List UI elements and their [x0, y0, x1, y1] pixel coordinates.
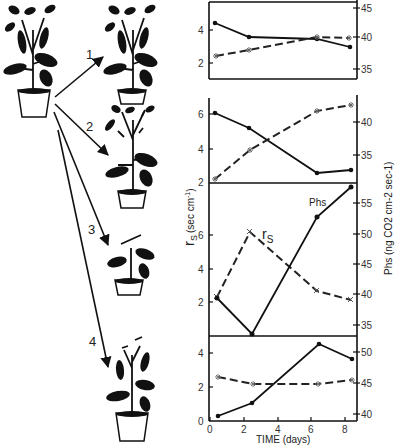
plant-control — [2, 3, 59, 117]
p4-right-tick-50: 50 — [361, 347, 373, 358]
p4-phs-line — [218, 344, 352, 416]
x-tick-8: 8 — [342, 424, 348, 435]
p3-phs-line — [217, 187, 351, 334]
arrow-2 — [55, 104, 108, 155]
p3-left-tick-2: 2 — [198, 297, 204, 308]
p1-right-tick-40: 40 — [361, 32, 373, 43]
p4-right-tick-40: 40 — [361, 409, 373, 420]
p4-rs-line — [218, 377, 352, 384]
rs-annotation: rS — [262, 226, 274, 245]
p2-right-tick-40: 40 — [361, 117, 373, 128]
p3-rs-line — [217, 232, 351, 300]
chart-panel-1: 4 2 45 40 35 — [198, 0, 373, 79]
p2-left-tick-2: 2 — [198, 177, 204, 188]
p3-right-tick-55: 55 — [361, 198, 373, 209]
p4-left-tick-4: 4 — [198, 348, 204, 359]
p1-right-tick-35: 35 — [361, 64, 373, 75]
p3-right-tick-45: 45 — [361, 259, 373, 270]
p4-right-tick-45: 45 — [361, 378, 373, 389]
treatment-label-1: 1 — [86, 47, 93, 62]
chart-panel-4: 4 2 0 50 45 40 0 2 4 6 8 TIME (days) — [198, 336, 373, 445]
p1-right-tick-45: 45 — [361, 3, 373, 14]
phs-annotation: Phs — [309, 197, 326, 208]
x-axis-title: TIME (days) — [256, 434, 310, 445]
treatment-label-3: 3 — [88, 222, 95, 237]
p4-left-tick-2: 2 — [198, 382, 204, 393]
plant-treatment-3 — [106, 235, 156, 295]
p1-left-tick-4: 4 — [198, 25, 204, 36]
p3-right-tick-50: 50 — [361, 229, 373, 240]
chart-panel-2: 6 4 2 40 35 — [198, 95, 373, 188]
plant-treatment-4 — [105, 337, 155, 441]
plant-treatment-2 — [103, 103, 159, 208]
p1-phs-line — [216, 37, 349, 56]
arrow-4 — [58, 130, 108, 367]
x-axis-ticks: 0 2 4 6 8 — [207, 417, 348, 435]
p3-right-tick-35: 35 — [361, 320, 373, 331]
treatment-arrows: 1 2 3 4 — [54, 47, 108, 367]
p1-left-tick-2: 2 — [198, 58, 204, 69]
p3-left-tick-4: 4 — [198, 264, 204, 275]
p2-rs-line — [215, 113, 351, 173]
x-tick-2: 2 — [241, 424, 247, 435]
p2-right-tick-35: 35 — [361, 150, 373, 161]
treatment-label-2: 2 — [86, 119, 93, 134]
arrow-3 — [54, 112, 108, 245]
arrow-1 — [55, 57, 103, 97]
p2-phs-line — [215, 105, 351, 179]
treatment-label-4: 4 — [89, 334, 96, 349]
right-axis-title: Phs (ng CO2 cm-2 sec-1) — [383, 162, 394, 275]
chart-panel-3: 6 4 2 55 50 45 40 35 Phs rS — [198, 183, 373, 337]
p2-left-tick-4: 4 — [198, 144, 204, 155]
p2-left-tick-6: 6 — [198, 109, 204, 120]
p3-right-tick-40: 40 — [361, 289, 373, 300]
plant-treatment-1 — [102, 3, 159, 104]
x-tick-0: 0 — [207, 424, 213, 435]
left-axis-title: rS(sec cm-1) — [180, 188, 199, 246]
p4-left-tick-0: 0 — [198, 416, 204, 427]
figure-canvas: 1 2 3 4 4 2 45 40 35 6 4 2 40 35 — [0, 0, 403, 447]
